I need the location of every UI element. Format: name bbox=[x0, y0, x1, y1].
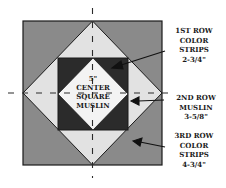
callout-line: COLOR bbox=[162, 141, 226, 151]
center-label-line: SQUARE bbox=[68, 92, 118, 101]
callout-second-row: 2ND ROW MUSLIN 3-5/8" bbox=[166, 93, 226, 122]
callout-line: 2ND ROW bbox=[166, 93, 226, 103]
center-label-line: CENTER bbox=[68, 83, 118, 92]
callout-line: 1ST ROW bbox=[162, 26, 226, 36]
center-label: 5" CENTER SQUARE MUSLIN bbox=[68, 74, 118, 110]
callout-line: STRIPS bbox=[162, 150, 226, 160]
callout-line: 4-3/4" bbox=[162, 160, 226, 170]
callout-line: 3-5/8" bbox=[166, 112, 226, 122]
callout-line: 2-3/4" bbox=[162, 55, 226, 65]
callout-third-row: 3RD ROW COLOR STRIPS 4-3/4" bbox=[162, 131, 226, 169]
center-label-line: MUSLIN bbox=[68, 101, 118, 110]
callout-line: STRIPS bbox=[162, 45, 226, 55]
callout-line: 3RD ROW bbox=[162, 131, 226, 141]
callout-first-row: 1ST ROW COLOR STRIPS 2-3/4" bbox=[162, 26, 226, 64]
callout-line: COLOR bbox=[162, 36, 226, 46]
callout-line: MUSLIN bbox=[166, 103, 226, 113]
center-label-size: 5" bbox=[68, 74, 118, 83]
